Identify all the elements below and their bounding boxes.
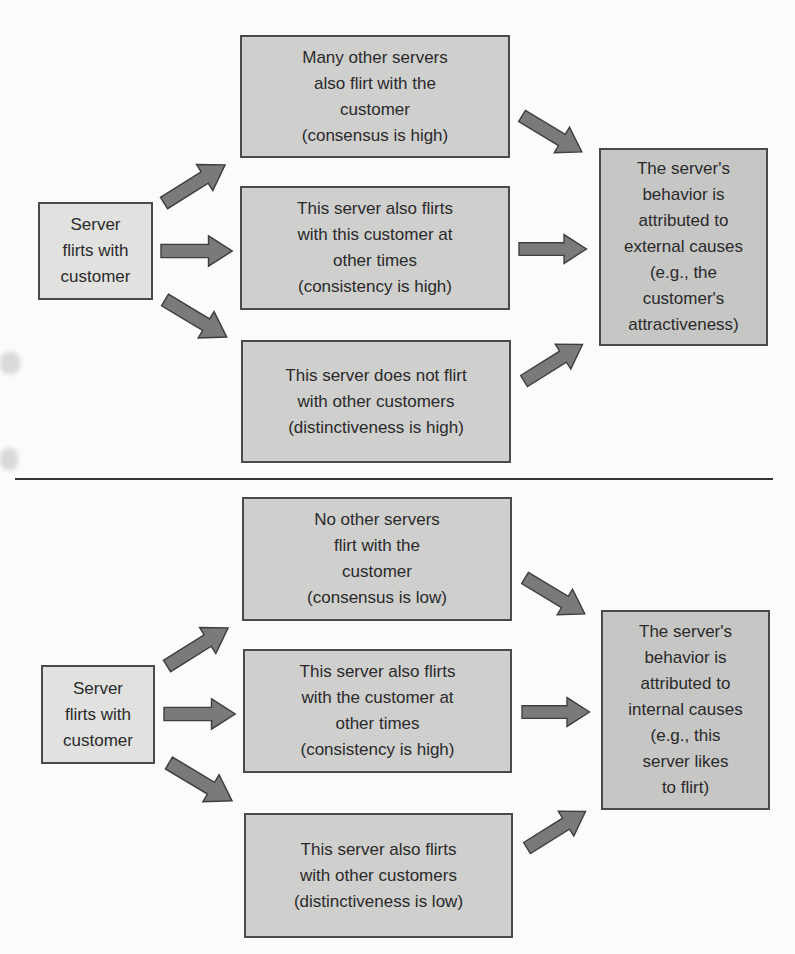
arrow-down-right-icon — [157, 287, 235, 350]
arrow-right-icon — [522, 698, 590, 727]
arrow-up-right-icon — [516, 332, 590, 394]
arrows-layer — [0, 0, 795, 954]
arrow-down-right-icon — [517, 565, 592, 626]
arrow-right-icon — [164, 699, 235, 729]
arrow-up-right-icon — [159, 615, 236, 679]
arrow-up-right-icon — [156, 152, 233, 216]
arrow-right-icon — [161, 236, 232, 266]
arrow-down-right-icon — [514, 103, 589, 164]
arrow-down-right-icon — [161, 750, 240, 815]
arrow-right-icon — [519, 235, 587, 264]
arrow-up-right-icon — [519, 799, 593, 861]
